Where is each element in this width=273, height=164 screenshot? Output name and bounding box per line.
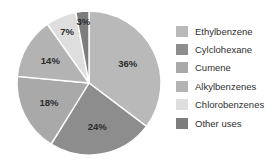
legend-item[interactable]: Other uses <box>176 114 271 132</box>
pie-slice-value-label: 18% <box>40 97 60 108</box>
legend-item-label: Ethylbenzene <box>195 26 253 37</box>
pie-slice-value-label: 36% <box>118 58 138 69</box>
legend-item-label: Cumene <box>195 62 231 73</box>
legend-item[interactable]: Ethylbenzene <box>176 22 271 40</box>
legend-item-label: Chlorobenzenes <box>195 99 264 110</box>
legend-color-swatch <box>176 44 188 55</box>
legend-color-swatch <box>176 62 188 73</box>
pie-slice-value-label: 14% <box>41 55 61 66</box>
pie-slice-value-label: 7% <box>60 26 74 37</box>
legend-item[interactable]: Alkylbenzenes <box>176 77 271 95</box>
legend-item[interactable]: Cylclohexane <box>176 40 271 58</box>
pie-slice-value-label: 24% <box>88 121 108 132</box>
pie-chart-plot-area: 36%24%18%14%7%3% <box>14 9 164 159</box>
chart-legend: EthylbenzeneCylclohexaneCumeneAlkylbenze… <box>176 22 271 132</box>
pie-chart-figure: 36%24%18%14%7%3% EthylbenzeneCylclohexan… <box>0 0 273 164</box>
legend-item[interactable]: Cumene <box>176 59 271 77</box>
legend-color-swatch <box>176 81 188 92</box>
legend-item-label: Cylclohexane <box>195 44 252 55</box>
legend-item[interactable]: Chlorobenzenes <box>176 96 271 114</box>
legend-item-label: Alkylbenzenes <box>195 81 256 92</box>
legend-color-swatch <box>176 99 188 110</box>
legend-color-swatch <box>176 118 188 129</box>
pie-slice-value-label: 3% <box>76 16 90 27</box>
legend-color-swatch <box>176 26 188 37</box>
legend-item-label: Other uses <box>195 118 241 129</box>
pie-chart-svg: 36%24%18%14%7%3% <box>14 9 164 159</box>
